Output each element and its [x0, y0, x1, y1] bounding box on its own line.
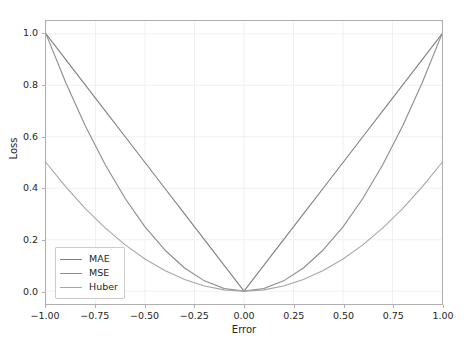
legend-item-mse: MSE	[60, 266, 118, 280]
y-tick-label: 0.8	[2, 80, 38, 90]
x-tick-label: 0.25	[283, 311, 304, 321]
legend-label: Huber	[89, 282, 118, 292]
y-axis-title: Loss	[8, 119, 19, 179]
x-tick-label: 0.00	[233, 311, 254, 321]
y-tick-label: 1.0	[2, 28, 38, 38]
y-tick-mark	[42, 188, 45, 189]
x-tick-label: −0.50	[130, 311, 159, 321]
legend-swatch-mae	[60, 259, 82, 260]
x-tick-mark	[443, 305, 444, 308]
chart-legend: MAE MSE Huber	[55, 247, 125, 299]
legend-item-huber: Huber	[60, 280, 118, 294]
x-tick-mark	[344, 305, 345, 308]
legend-swatch-huber	[60, 287, 82, 288]
x-tick-mark	[95, 305, 96, 308]
y-tick-mark	[42, 85, 45, 86]
x-tick-label: −0.75	[80, 311, 109, 321]
y-tick-label: 0.4	[2, 184, 38, 194]
y-tick-mark	[42, 240, 45, 241]
x-tick-label: −0.25	[180, 311, 209, 321]
legend-swatch-mse	[60, 273, 82, 274]
x-tick-mark	[45, 305, 46, 308]
x-tick-label: 0.75	[383, 311, 404, 321]
y-tick-label: 0.0	[2, 287, 38, 297]
x-tick-mark	[194, 305, 195, 308]
legend-label: MAE	[89, 254, 110, 264]
y-tick-mark	[42, 137, 45, 138]
x-axis-title: Error	[45, 324, 443, 335]
legend-item-mae: MAE	[60, 252, 118, 266]
x-tick-label: −1.00	[30, 311, 59, 321]
x-tick-mark	[244, 305, 245, 308]
legend-label: MSE	[89, 268, 109, 278]
x-tick-mark	[145, 305, 146, 308]
x-tick-label: 1.00	[432, 311, 453, 321]
y-tick-mark	[42, 292, 45, 293]
y-tick-mark	[42, 33, 45, 34]
x-tick-label: 0.50	[333, 311, 354, 321]
x-tick-mark	[294, 305, 295, 308]
chart-figure: 0.00.20.40.60.81.0 −1.00−0.75−0.50−0.250…	[0, 0, 466, 344]
y-tick-label: 0.2	[2, 235, 38, 245]
x-tick-mark	[393, 305, 394, 308]
